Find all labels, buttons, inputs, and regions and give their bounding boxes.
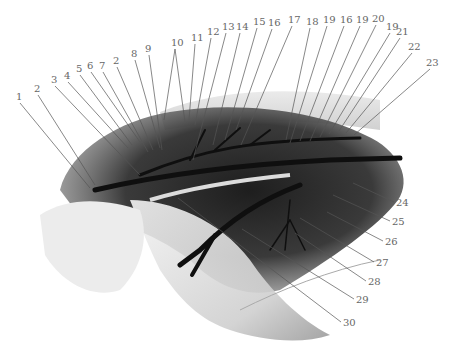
leader-line (68, 82, 128, 148)
figure-label: 20 (372, 14, 385, 24)
figure-label: 6 (87, 61, 93, 71)
figure-label: 10 (171, 38, 184, 48)
figure-label: 8 (131, 49, 137, 59)
figure-label: 30 (343, 318, 356, 328)
figure-label: 5 (76, 64, 82, 74)
figure-label: 11 (191, 33, 204, 43)
figure-label: 29 (356, 295, 369, 305)
figure-label: 12 (207, 27, 220, 37)
figure-label: 16 (268, 18, 281, 28)
figure-label: 9 (145, 44, 151, 54)
figure-label: 2 (34, 84, 40, 94)
figure-label: 2 (113, 56, 119, 66)
figure-label: 7 (99, 61, 105, 71)
figure-label: 19 (323, 15, 336, 25)
figure-label: 21 (396, 27, 409, 37)
figure-label: 28 (368, 277, 381, 287)
anatomical-illustration (0, 0, 451, 364)
left-pale-region (40, 201, 144, 292)
figure-label: 1 (16, 92, 22, 102)
figure-label: 17 (288, 15, 301, 25)
figure-label: 13 (222, 22, 235, 32)
leader-line (20, 103, 90, 188)
figure-label: 22 (408, 42, 421, 52)
figure-label: 26 (385, 237, 398, 247)
figure-label: 24 (396, 198, 409, 208)
figure-label: 4 (64, 71, 70, 81)
figure-label: 23 (426, 58, 439, 68)
figure-label: 15 (253, 17, 266, 27)
figure-label: 3 (51, 75, 57, 85)
figure-label: 19 (356, 15, 369, 25)
figure-label: 27 (376, 258, 389, 268)
leader-line (38, 95, 95, 185)
figure-label: 16 (340, 15, 353, 25)
figure-label: 14 (236, 22, 249, 32)
figure-label: 25 (392, 217, 405, 227)
figure-label: 18 (306, 17, 319, 27)
